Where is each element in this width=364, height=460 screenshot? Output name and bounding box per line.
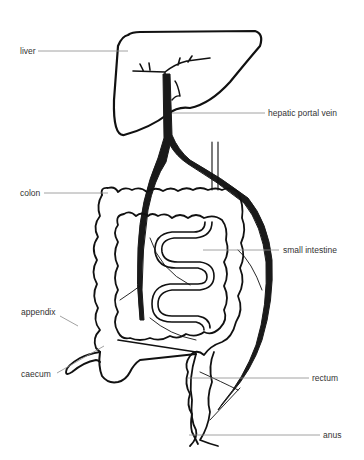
liver-vein-branches [133, 56, 210, 78]
label-hepatic-portal-vein: hepatic portal vein [268, 108, 337, 118]
label-colon: colon [20, 188, 40, 198]
leader-appendix [60, 316, 78, 326]
appendix [66, 352, 100, 374]
vein-small-branch [172, 81, 180, 100]
label-liver: liver [20, 46, 36, 56]
label-caecum: caecum [21, 369, 51, 379]
label-appendix: appendix [21, 307, 56, 317]
label-small-intestine: small intestine [283, 245, 337, 255]
digestive-system-diagram [0, 0, 364, 460]
ileum-connection [118, 340, 196, 352]
rectum [190, 352, 218, 446]
label-rectum: rectum [312, 373, 338, 383]
hepatic-portal-vein [137, 74, 272, 410]
label-anus: anus [323, 430, 341, 440]
small-intestine [152, 222, 214, 330]
caecum [99, 352, 196, 382]
liver-shape [114, 31, 261, 135]
colon-left-wall [94, 195, 103, 352]
